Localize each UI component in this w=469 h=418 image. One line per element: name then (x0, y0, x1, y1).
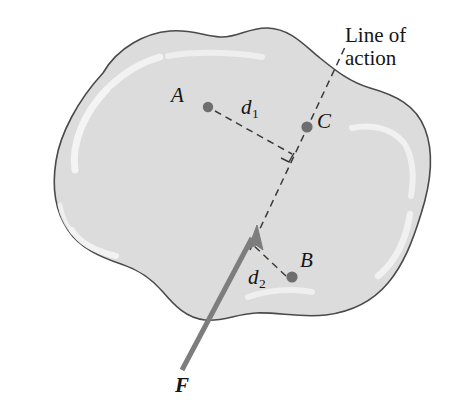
distance-d1-subscript: 1 (252, 106, 259, 121)
figure-canvas: A C B d1 d2 F Line of action (0, 0, 469, 418)
distance-label-d2: d2 (248, 266, 266, 292)
point-label-c: C (317, 110, 331, 133)
distance-d2-subscript: 2 (259, 276, 266, 291)
line-of-action-label-row1: Line of (345, 24, 406, 47)
distance-d2-base: d (248, 265, 259, 289)
line-of-action-label: Line of action (345, 24, 406, 69)
distance-d1-base: d (241, 95, 252, 119)
force-label-f: F (175, 374, 189, 397)
point-dot-b (286, 271, 297, 282)
body-outline (54, 28, 430, 320)
point-dot-a (203, 102, 213, 112)
point-label-a: A (171, 84, 184, 107)
point-label-b: B (300, 249, 313, 272)
rigid-body-shape (54, 28, 430, 320)
distance-label-d1: d1 (241, 96, 259, 122)
line-of-action-label-row2: action (345, 47, 406, 70)
point-dot-c (301, 121, 312, 132)
